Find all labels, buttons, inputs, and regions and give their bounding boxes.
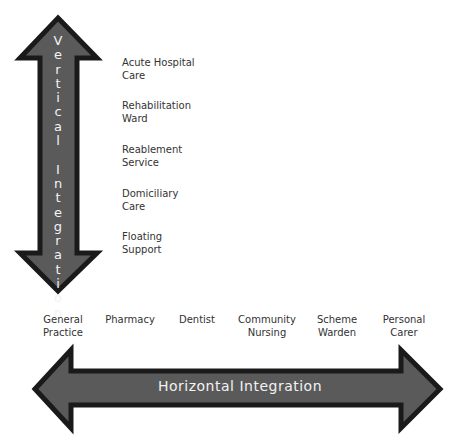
v-letter: r	[55, 63, 60, 77]
item-line: Rehabilitation	[122, 99, 212, 112]
item-line: Community	[227, 313, 307, 326]
item-line: Reablement	[122, 143, 212, 156]
v-letter: t	[55, 191, 60, 205]
item-line: Personal	[364, 313, 444, 326]
item-line: Floating	[122, 230, 212, 243]
v-letter: r	[55, 234, 60, 248]
item-line: Carer	[364, 326, 444, 339]
vertical-item-floating-support: Floating Support	[122, 230, 212, 256]
item-line: Care	[122, 200, 212, 213]
v-letter: i	[56, 91, 60, 105]
item-line: Support	[122, 243, 212, 256]
item-line: Care	[122, 69, 212, 82]
horizontal-item-personal-carer: Personal Carer	[364, 313, 444, 339]
item-line: Acute Hospital	[122, 56, 212, 69]
horizontal-item-community-nursing: Community Nursing	[227, 313, 307, 339]
v-letter: t	[55, 263, 60, 277]
v-letter: g	[54, 220, 62, 234]
item-line: Ward	[122, 112, 212, 125]
vertical-item-acute-hospital-care: Acute Hospital Care	[122, 56, 212, 82]
v-letter: l	[56, 134, 60, 148]
vertical-item-reablement-service: Reablement Service	[122, 143, 212, 169]
v-letter: o	[54, 291, 62, 305]
horizontal-integration-label: Horizontal Integration	[150, 378, 330, 394]
item-line: Dentist	[157, 313, 237, 326]
v-letter: a	[54, 248, 62, 262]
item-line: Domiciliary	[122, 187, 212, 200]
v-letter: I	[56, 163, 60, 177]
v-letter: e	[54, 48, 62, 62]
v-letter: c	[54, 105, 61, 119]
vertical-integration-label: V e r t i c a l I n t e g r a t i o n	[50, 34, 66, 320]
v-letter: i	[56, 277, 60, 291]
v-letter: t	[55, 77, 60, 91]
item-line: Nursing	[227, 326, 307, 339]
item-line: Practice	[23, 326, 103, 339]
item-line: Service	[122, 156, 212, 169]
vertical-item-domiciliary-care: Domiciliary Care	[122, 187, 212, 213]
vertical-item-rehabilitation-ward: Rehabilitation Ward	[122, 99, 212, 125]
horizontal-item-dentist: Dentist	[157, 313, 237, 326]
v-letter: V	[54, 34, 63, 48]
v-letter: a	[54, 120, 62, 134]
v-letter: n	[54, 177, 62, 191]
v-letter: e	[54, 206, 62, 220]
